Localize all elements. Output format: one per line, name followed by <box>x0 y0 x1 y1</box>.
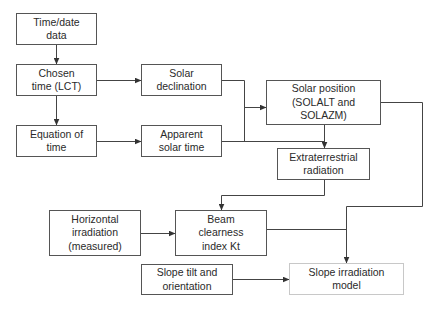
edge-declination-junction <box>222 81 245 142</box>
node-label: Extraterrestrial radiation <box>289 151 357 178</box>
node-equation-of-time: Equation of time <box>16 125 97 157</box>
node-slope-irradiation-model: Slope irradiation model <box>289 263 404 295</box>
node-label: Solar position (SOLALT and SOLAZM) <box>292 82 356 123</box>
node-label: Time/date data <box>33 16 79 43</box>
node-label: Slope tilt and orientation <box>157 266 218 293</box>
node-solar-declination: Solar declination <box>141 64 222 96</box>
node-label: Equation of time <box>30 128 83 155</box>
node-label: Solar declination <box>156 67 206 94</box>
node-label: Horizontal irradiation (measured) <box>68 213 122 254</box>
node-chosen-time: Chosen time (LCT) <box>16 64 97 96</box>
node-label: Slope irradiation model <box>309 266 385 293</box>
edge-extraterrestrial-beam <box>222 180 325 210</box>
node-horizontal-irradiation: Horizontal irradiation (measured) <box>49 210 141 256</box>
node-label: Beam clearness index Kt <box>199 213 244 254</box>
node-label: Apparent solar time <box>159 128 205 155</box>
node-label: Chosen time (LCT) <box>32 67 82 94</box>
node-apparent-solar-time: Apparent solar time <box>141 125 222 157</box>
node-extraterrestrial-radiation: Extraterrestrial radiation <box>277 148 370 180</box>
node-time-date-data: Time/date data <box>16 13 97 45</box>
node-slope-tilt-orientation: Slope tilt and orientation <box>141 264 233 295</box>
edge-solarposition-slopemodel <box>347 103 423 264</box>
node-beam-clearness-index: Beam clearness index Kt <box>175 210 267 256</box>
node-solar-position: Solar position (SOLALT and SOLAZM) <box>266 80 381 125</box>
